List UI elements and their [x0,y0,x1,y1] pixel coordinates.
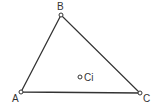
vertex-a-point [19,90,23,94]
triangle-abc [21,15,140,93]
interior-point-label: Ci [84,72,93,83]
vertex-b-point [59,13,63,17]
triangle-diagram: A B C Ci [0,0,159,110]
vertex-c-point [138,91,142,95]
interior-point-ci [78,75,82,79]
vertex-b-label: B [57,1,64,12]
vertex-a-label: A [12,93,19,104]
vertex-c-label: C [143,93,150,104]
